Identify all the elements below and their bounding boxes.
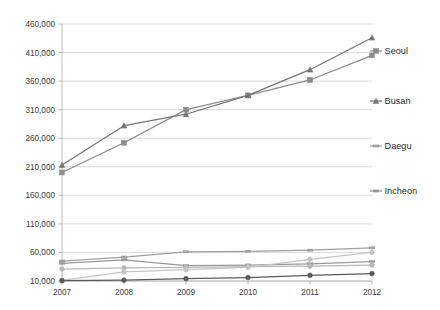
legend-item-incheon[interactable]: Incheon — [370, 186, 417, 196]
axes — [59, 24, 373, 285]
series-line — [62, 274, 372, 281]
data-point-marker — [245, 250, 251, 252]
data-point-marker — [369, 35, 375, 40]
y-axis-tick-label: 110,000 — [26, 220, 55, 229]
series-busan — [59, 35, 375, 168]
data-point-marker — [374, 49, 379, 54]
data-point-marker — [308, 273, 313, 278]
legend-label: Incheon — [385, 186, 418, 196]
data-point-marker — [60, 170, 65, 175]
data-point-marker — [373, 190, 379, 192]
data-point-marker — [184, 276, 189, 281]
data-point-marker — [60, 267, 65, 272]
series-daegu — [59, 247, 375, 262]
x-axis-tick-labels: 200720082009201020112012 — [53, 288, 382, 297]
chart-legend: SeoulBusanDaeguIncheon — [370, 46, 417, 196]
data-point-marker — [308, 78, 313, 83]
data-point-marker — [307, 249, 313, 251]
data-point-marker — [121, 259, 127, 261]
data-point-marker — [307, 67, 313, 72]
y-axis-tick-label: 160,000 — [25, 191, 55, 200]
series-seoul — [60, 53, 375, 175]
data-point-marker — [370, 271, 375, 276]
chart-canvas: 10,00060,000110,000160,000210,000260,000… — [0, 0, 440, 310]
y-axis-tick-label: 60,000 — [30, 248, 55, 257]
series-layer — [59, 35, 375, 283]
legend-item-daegu[interactable]: Daegu — [370, 141, 412, 151]
x-axis-tick-label: 2010 — [239, 288, 258, 297]
y-axis-tick-label: 10,000 — [30, 277, 55, 286]
data-point-marker — [369, 247, 375, 249]
data-point-marker — [308, 264, 313, 269]
x-axis-tick-label: 2012 — [363, 288, 382, 297]
data-point-marker — [370, 53, 375, 58]
y-axis-tick-label: 410,000 — [25, 49, 55, 58]
legend-label: Daegu — [385, 141, 412, 151]
x-axis-tick-label: 2009 — [177, 288, 196, 297]
data-point-marker — [370, 263, 375, 268]
y-axis-tick-label: 210,000 — [25, 163, 55, 172]
series-line — [62, 248, 372, 261]
data-point-marker — [59, 262, 65, 264]
y-axis-tick-label: 260,000 — [25, 134, 55, 143]
data-point-marker — [308, 257, 313, 262]
series-4 — [60, 263, 375, 272]
data-point-marker — [121, 256, 127, 258]
legend-item-busan[interactable]: Busan — [370, 96, 411, 106]
data-point-marker — [246, 275, 251, 280]
data-point-marker — [183, 251, 189, 253]
data-point-marker — [122, 278, 127, 283]
gridlines — [62, 24, 372, 281]
data-point-marker — [370, 250, 375, 255]
y-axis-tick-label: 310,000 — [25, 106, 55, 115]
data-point-marker — [246, 265, 251, 270]
y-axis-tick-label: 360,000 — [25, 77, 55, 86]
legend-item-seoul[interactable]: Seoul — [370, 46, 408, 56]
legend-label: Busan — [385, 96, 411, 106]
data-point-marker — [373, 145, 379, 147]
x-axis-tick-label: 2011 — [301, 288, 319, 297]
data-point-marker — [60, 278, 65, 283]
series-line — [62, 38, 372, 165]
y-axis-tick-labels: 10,00060,000110,000160,000210,000260,000… — [25, 20, 55, 286]
legend-label: Seoul — [385, 46, 409, 56]
line-chart: 10,00060,000110,000160,000210,000260,000… — [0, 0, 440, 310]
series-line — [62, 55, 372, 172]
data-point-marker — [122, 140, 127, 145]
x-axis-tick-label: 2007 — [53, 288, 72, 297]
data-point-marker — [184, 267, 189, 272]
data-point-marker — [59, 260, 65, 262]
data-point-marker — [59, 162, 65, 167]
y-axis-tick-label: 460,000 — [25, 20, 55, 29]
data-point-marker — [122, 269, 127, 274]
x-axis-tick-label: 2008 — [115, 288, 134, 297]
series-line — [62, 260, 372, 266]
